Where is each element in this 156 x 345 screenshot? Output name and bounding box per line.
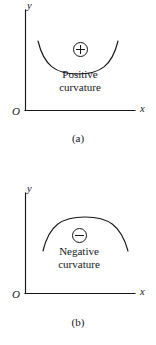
x-axis-label: x: [140, 104, 145, 115]
origin-label: O: [12, 289, 20, 300]
caption-line-2: curvature: [29, 258, 129, 271]
negative-curvature-caption: Negative curvature: [29, 245, 129, 270]
panel-tag-a: (a): [0, 132, 156, 144]
y-axis-label: y: [27, 1, 32, 12]
plus-sign-icon: [73, 42, 88, 57]
positive-curvature-caption: Positive curvature: [30, 68, 130, 93]
origin-label: O: [12, 106, 20, 117]
panel-positive-curvature: y x O Positive curvature (a): [0, 0, 156, 172]
minus-sign-icon: [72, 228, 87, 243]
curvature-figure: y x O Positive curvature (a) y x O: [0, 0, 156, 345]
minus-glyph: [75, 231, 84, 240]
plus-glyph: [76, 45, 85, 54]
caption-line-1: Negative: [29, 245, 129, 258]
caption-line-2: curvature: [30, 81, 130, 94]
y-axis-label: y: [27, 184, 32, 195]
panel-tag-b: (b): [0, 316, 156, 328]
x-axis-label: x: [140, 287, 145, 298]
caption-line-1: Positive: [30, 68, 130, 81]
